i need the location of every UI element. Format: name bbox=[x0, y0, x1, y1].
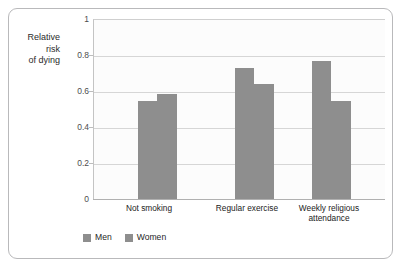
y-tick-label-0.8: 0.8 bbox=[61, 51, 89, 60]
bar-women-weekly-religious-attendance bbox=[331, 101, 351, 199]
y-tick-label-0.4: 0.4 bbox=[61, 123, 89, 132]
legend-item-men[interactable]: Men bbox=[83, 233, 112, 242]
bar-women-regular-exercise bbox=[254, 84, 274, 199]
x-category-label-not-smoking: Not smoking bbox=[104, 203, 194, 213]
y-tick-label-0: 0 bbox=[61, 195, 89, 204]
x-category-label-regular-exercise-line-1: Regular exercise bbox=[200, 203, 294, 213]
y-tick-mark-0.8 bbox=[89, 55, 93, 56]
y-tick-mark-0.6 bbox=[89, 91, 93, 92]
y-axis-title-line-3: of dying bbox=[12, 55, 60, 67]
x-category-label-weekly-religious-attendance: Weekly religious attendance bbox=[281, 203, 377, 223]
x-category-label-weekly-religious-attendance-line-1: Weekly religious bbox=[281, 203, 377, 213]
bar-men-not-smoking bbox=[138, 101, 157, 199]
legend-swatch-men-icon bbox=[83, 234, 91, 242]
chart-figure: Relative risk of dying 1 0.8 0.6 0.4 0.2… bbox=[0, 0, 403, 269]
chart-legend: Men Women bbox=[83, 233, 166, 242]
y-axis-title-line-1: Relative bbox=[12, 32, 60, 44]
y-axis-ticks: 1 0.8 0.6 0.4 0.2 0 bbox=[58, 0, 89, 269]
y-tick-mark-0.4 bbox=[89, 127, 93, 128]
bar-men-regular-exercise bbox=[235, 68, 254, 199]
y-tick-label-1: 1 bbox=[61, 15, 89, 24]
gridline-0.8 bbox=[94, 56, 385, 57]
y-axis-title-line-2: risk bbox=[12, 44, 60, 56]
plot-area bbox=[93, 19, 385, 199]
y-axis-title: Relative risk of dying bbox=[12, 32, 60, 67]
x-category-label-regular-exercise: Regular exercise bbox=[200, 203, 294, 213]
y-tick-mark-0.2 bbox=[89, 163, 93, 164]
x-category-label-weekly-religious-attendance-line-2: attendance bbox=[281, 213, 377, 223]
bar-men-weekly-religious-attendance bbox=[312, 61, 331, 199]
legend-label-men: Men bbox=[95, 233, 112, 242]
x-category-label-not-smoking-line-1: Not smoking bbox=[104, 203, 194, 213]
y-tick-label-0.6: 0.6 bbox=[61, 87, 89, 96]
y-tick-label-0.2: 0.2 bbox=[61, 159, 89, 168]
legend-label-women: Women bbox=[137, 233, 166, 242]
bar-women-not-smoking bbox=[157, 94, 177, 199]
legend-item-women[interactable]: Women bbox=[125, 233, 166, 242]
legend-swatch-women-icon bbox=[125, 234, 133, 242]
x-axis-line bbox=[93, 199, 385, 200]
